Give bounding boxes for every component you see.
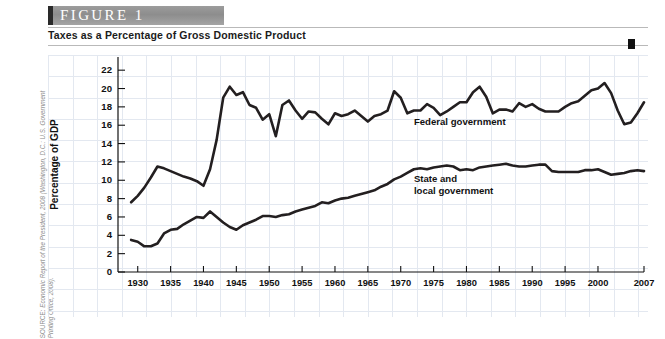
y-tick-label: 16 <box>88 119 112 130</box>
y-tick-label: 6 <box>88 211 112 222</box>
source-lead: SOURCE: <box>39 310 46 339</box>
y-axis-title: Percentage of GDP <box>49 114 60 214</box>
x-tick-label: 1980 <box>449 278 483 288</box>
axes-group <box>118 57 644 272</box>
y-tick-label: 0 <box>88 266 112 277</box>
x-tick-label: 1955 <box>285 278 319 288</box>
series-annotation-federal: Federal government <box>414 116 506 128</box>
figure-banner-edge <box>48 6 53 25</box>
x-tick-label: 1995 <box>548 278 582 288</box>
x-tick-label: 1990 <box>515 278 549 288</box>
x-tick-label: 1975 <box>417 278 451 288</box>
x-tick-label: 2000 <box>581 278 615 288</box>
y-tick-label: 22 <box>88 64 112 75</box>
y-tick-label: 20 <box>88 83 112 94</box>
header-rule-top <box>48 27 648 28</box>
x-tick-label: 1935 <box>154 278 188 288</box>
y-tick-label: 18 <box>88 101 112 112</box>
x-tick-label: 1965 <box>351 278 385 288</box>
corner-square-marker <box>628 39 635 49</box>
x-tick-label: 1970 <box>384 278 418 288</box>
y-tick-label: 8 <box>88 193 112 204</box>
x-tick-label: 1950 <box>252 278 286 288</box>
figure-title: Taxes as a Percentage of Gross Domestic … <box>48 29 306 41</box>
x-tick-label: 1945 <box>219 278 253 288</box>
y-tick-label: 2 <box>88 248 112 259</box>
y-tick-label: 4 <box>88 229 112 240</box>
figure-container: FIGURE 1 Taxes as a Percentage of Gross … <box>0 0 665 339</box>
x-tick-label: 2007 <box>627 278 661 288</box>
x-tick-label: 1985 <box>482 278 516 288</box>
y-tick-label: 12 <box>88 156 112 167</box>
series-annotation-state-local: State and local government <box>414 173 493 196</box>
figure-number-label: FIGURE 1 <box>60 7 145 24</box>
x-tick-label: 1930 <box>121 278 155 288</box>
x-tick-label: 1940 <box>186 278 220 288</box>
header-rule-bottom <box>48 45 648 46</box>
series-group <box>131 83 644 246</box>
x-tick-label: 1960 <box>318 278 352 288</box>
y-tick-label: 10 <box>88 174 112 185</box>
y-tick-label: 14 <box>88 138 112 149</box>
